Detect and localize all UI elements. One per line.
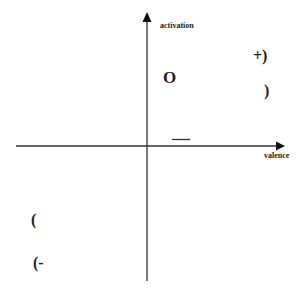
valence-axis-label: valence bbox=[264, 151, 289, 160]
circle-o-symbol: O bbox=[163, 69, 176, 86]
axes-diagram bbox=[0, 0, 303, 293]
valence-arrow-icon bbox=[276, 142, 285, 151]
activation-arrow-icon bbox=[143, 12, 152, 22]
close-paren-symbol: ) bbox=[264, 83, 269, 99]
activation-axis-label: activation bbox=[160, 21, 194, 30]
open-paren-symbol: ( bbox=[31, 212, 36, 228]
plus-paren-symbol: +) bbox=[253, 48, 267, 64]
open-paren-minus-symbol: (- bbox=[33, 255, 44, 271]
